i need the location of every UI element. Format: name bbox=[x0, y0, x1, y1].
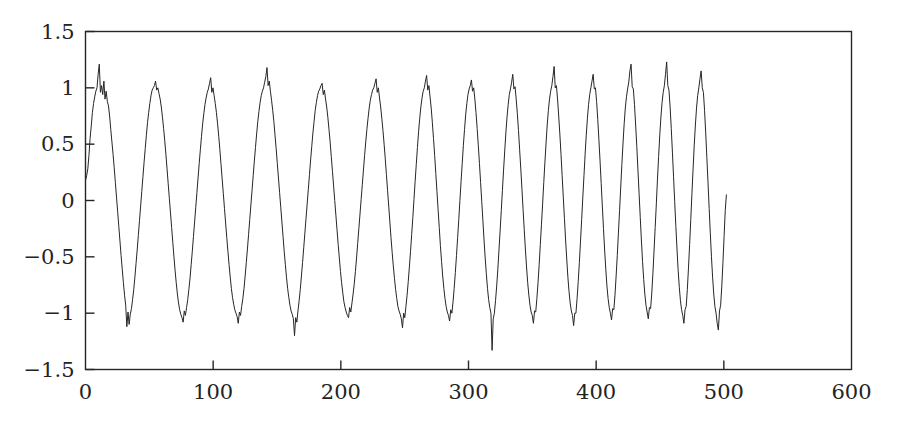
chart-plot-area bbox=[0, 0, 898, 424]
y-tick-label: 1 bbox=[61, 77, 74, 98]
x-tick-label: 500 bbox=[704, 382, 744, 403]
y-tick-label: 1.5 bbox=[41, 21, 74, 42]
x-tick-label: 0 bbox=[79, 382, 92, 403]
x-tick-label: 100 bbox=[193, 382, 233, 403]
x-tick-label: 400 bbox=[576, 382, 616, 403]
x-tick-label: 600 bbox=[831, 382, 871, 403]
x-tick-label: 300 bbox=[448, 382, 488, 403]
plot-frame bbox=[86, 32, 852, 370]
y-tick-label: −0.5 bbox=[24, 246, 75, 267]
y-tick-label: 0 bbox=[61, 190, 74, 211]
y-tick-label: −1.5 bbox=[24, 359, 75, 380]
x-tick-label: 200 bbox=[321, 382, 361, 403]
chart-figure: −1.5−1−0.500.511.5 0100200300400500600 bbox=[0, 0, 898, 424]
y-tick-label: 0.5 bbox=[41, 134, 74, 155]
y-tick-label: −1 bbox=[44, 303, 75, 324]
